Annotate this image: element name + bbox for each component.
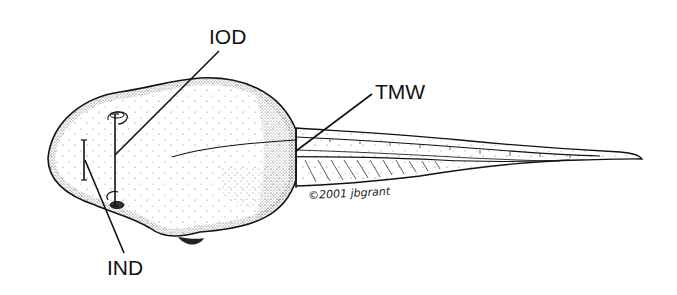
tadpole-illustration: [0, 0, 677, 295]
label-ind: IND: [107, 257, 143, 278]
tadpole-diagram: IOD TMW IND ©2001 jbgrant: [0, 0, 677, 295]
label-iod: IOD: [209, 26, 246, 47]
label-tmw: TMW: [375, 81, 425, 102]
body: [40, 70, 300, 245]
